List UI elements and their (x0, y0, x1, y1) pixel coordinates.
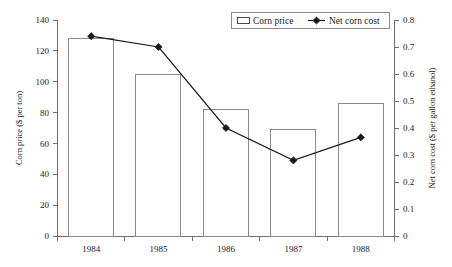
bar-1987 (271, 130, 316, 237)
chart-legend: Corn price Net corn cost (232, 13, 390, 29)
left-axis-title: Corn price ($ per ton) (14, 91, 24, 165)
corn-price-net-corn-cost-chart: 140 120 100 80 60 40 20 0 Corn price ($ … (0, 0, 452, 267)
left-tick-label-100: 100 (36, 77, 50, 87)
legend-label-corn-price: Corn price (253, 16, 293, 26)
left-tick-label-0: 0 (45, 231, 50, 241)
bar-1988 (338, 104, 383, 237)
right-tick-label-0-6: 0.6 (403, 69, 415, 79)
category-label-1987: 1987 (284, 244, 303, 254)
left-tick-label-120: 120 (36, 46, 50, 56)
left-tick-label-40: 40 (40, 169, 50, 179)
right-axis-title: Net corn cost ($ per gallon ethanol) (427, 67, 437, 188)
category-label-1985: 1985 (150, 244, 169, 254)
chart-figure: 140 120 100 80 60 40 20 0 Corn price ($ … (0, 0, 452, 267)
left-tick-label-140: 140 (36, 15, 50, 25)
right-tick-label-0-1: 0.1 (403, 204, 414, 214)
legend-swatch-corn-price (238, 18, 250, 24)
right-tick-label-0-7: 0.7 (403, 42, 415, 52)
category-label-1988: 1988 (352, 244, 371, 254)
bar-1984 (69, 39, 114, 237)
right-tick-label-0-5: 0.5 (403, 96, 415, 106)
right-tick-label-0-8: 0.8 (403, 15, 415, 25)
right-tick-label-0-4: 0.4 (403, 123, 415, 133)
category-label-1986: 1986 (217, 244, 236, 254)
left-tick-label-20: 20 (40, 200, 50, 210)
right-tick-label-0-3: 0.3 (403, 150, 415, 160)
legend-label-net-corn-cost: Net corn cost (329, 16, 380, 26)
bar-1985 (136, 75, 181, 237)
left-tick-label-60: 60 (40, 139, 50, 149)
right-tick-label-0-2: 0.2 (403, 177, 414, 187)
right-axis-tick-labels: 0.8 0.7 0.6 0.5 0.4 0.3 0.2 0.1 0 (403, 15, 415, 241)
category-label-1984: 1984 (82, 244, 101, 254)
left-tick-label-80: 80 (40, 108, 50, 118)
right-tick-label-0: 0 (403, 231, 408, 241)
